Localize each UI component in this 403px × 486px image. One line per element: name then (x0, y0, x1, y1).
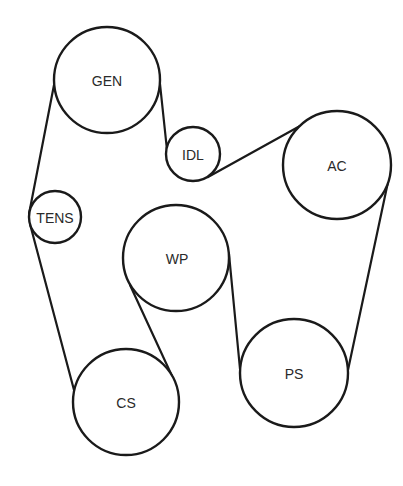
pulley-ps-label: PS (285, 366, 304, 382)
pulley-ac: AC (283, 111, 391, 219)
pulley-wp: WP (123, 205, 229, 311)
pulley-ac-label: AC (327, 158, 346, 174)
pulley-gen: GEN (54, 27, 160, 133)
belt-segment-wp-ps (229, 254, 240, 369)
pulley-cs-label: CS (116, 395, 135, 411)
pulley-gen-label: GEN (92, 73, 122, 89)
pulley-idl: IDL (166, 127, 220, 181)
pulley-ps: PS (240, 319, 348, 427)
pulley-cs: CS (73, 349, 179, 455)
belt-segment-idl-gen (160, 84, 167, 150)
belt-segment-tens-cs (30, 224, 74, 390)
pulley-wp-label: WP (166, 251, 189, 267)
belt-routing-diagram: GEN IDL AC TENS WP PS CS (0, 0, 403, 486)
pulley-tens: TENS (29, 191, 81, 243)
pulley-idl-label: IDL (182, 147, 204, 163)
pulley-tens-label: TENS (36, 210, 73, 226)
